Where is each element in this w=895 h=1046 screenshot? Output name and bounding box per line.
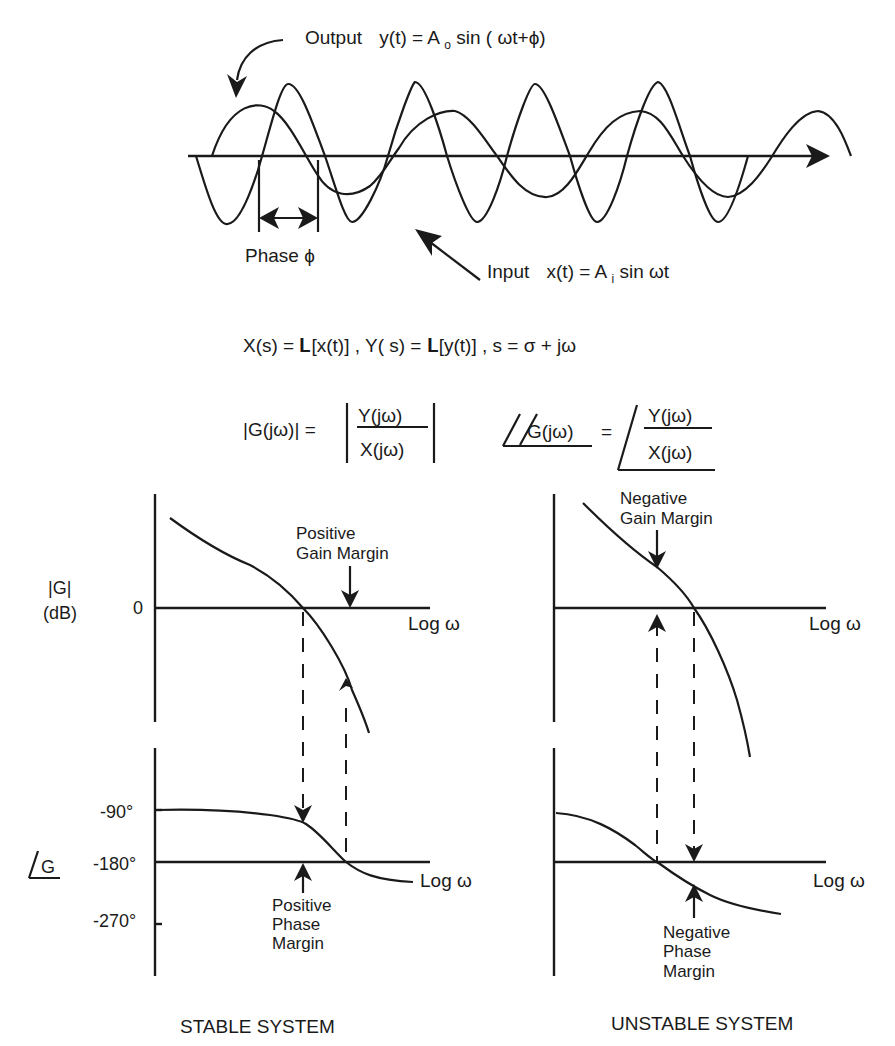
unstable-phase-margin-label-2: Phase (663, 942, 711, 961)
stable-caption: STABLE SYSTEM (180, 1016, 335, 1037)
phase-numerator: Y(jω) (648, 405, 692, 426)
phase-label: Phase ϕ (245, 245, 315, 266)
phase-tick-90: -90° (100, 802, 133, 822)
stable-phase-curve (157, 810, 413, 882)
stable-magnitude-plot: |G| (dB) 0 Log ω Positive Gain Margin (43, 494, 460, 733)
stable-gain-margin-label-2: Gain Margin (296, 544, 389, 563)
unstable-magnitude-curve (583, 503, 750, 757)
svg-text:Input x(t) = A i: Input x(t) = A i sin ωt (487, 261, 670, 287)
input-equation: x(t) = A (547, 261, 608, 282)
output-equation-tail: sin ( ωt+ϕ) (456, 27, 545, 48)
unstable-phase-plot: Log ω Negative Phase Margin (554, 748, 865, 981)
phase-tick-180: -180° (93, 854, 136, 874)
mag-axis-label-2: (dB) (43, 603, 77, 623)
output-label: Output (305, 27, 363, 48)
magnitude-lhs: |G(jω)| = (243, 419, 316, 440)
svg-text:Output y(t) = A o: Output y(t) = A o sin ( ωt+ϕ) (305, 27, 546, 53)
magnitude-denominator: X(jω) (360, 439, 404, 460)
stable-phase-margin-label-3: Margin (272, 934, 324, 953)
stable-gain-margin-label-1: Positive (296, 524, 356, 543)
equations: X(s) = 𝐋[x(t)] , Y( s) = 𝐋[y(t)] , s = σ… (243, 335, 715, 470)
magnitude-numerator: Y(jω) (358, 405, 402, 426)
unstable-phase-margin-label-1: Negative (663, 923, 730, 942)
stable-phase-margin-label-2: Phase (272, 915, 320, 934)
mag-axis-label-1: |G| (48, 578, 71, 598)
phase-axis-label: G (41, 857, 55, 877)
input-equation-tail: sin ωt (619, 261, 669, 282)
unstable-phase-curve (556, 813, 781, 914)
input-label: Input (487, 261, 530, 282)
phase-tick-270: -270° (93, 911, 136, 931)
unstable-gain-margin-label-2: Gain Margin (620, 509, 713, 528)
input-pointer-arrowhead-icon (415, 229, 442, 256)
phase-denominator: X(jω) (648, 442, 692, 463)
input-wave (212, 105, 851, 197)
unstable-caption: UNSTABLE SYSTEM (611, 1013, 793, 1034)
phase-lhs: G(jω) (527, 421, 574, 442)
unstable-phase-margin-label-3: Margin (663, 962, 715, 981)
unstable-gain-margin-label-1: Negative (620, 489, 687, 508)
input-subscript: i (612, 272, 615, 286)
unstable-magnitude-plot: Negative Gain Margin Log ω (554, 489, 861, 757)
input-pointer (430, 242, 480, 280)
output-subscript: o (444, 38, 451, 52)
stable-mag-x-label: Log ω (408, 613, 460, 634)
phase-equals: = (601, 421, 612, 442)
signal-waves: Output y(t) = A o sin ( ωt+ϕ) Phase ϕ In… (188, 27, 851, 287)
bode-stability-diagram: Output y(t) = A o sin ( ωt+ϕ) Phase ϕ In… (0, 0, 895, 1046)
mag-zero-tick: 0 (133, 598, 143, 618)
stable-phase-x-label: Log ω (420, 870, 472, 891)
output-wave (196, 82, 748, 224)
laplace-equation: X(s) = 𝐋[x(t)] , Y( s) = 𝐋[y(t)] , s = σ… (243, 335, 576, 356)
stable-phase-plot: -90° -180° -270° G Log ω Positive Phase … (29, 748, 472, 976)
unstable-mag-x-label: Log ω (809, 613, 861, 634)
unstable-phase-x-label: Log ω (813, 870, 865, 891)
output-pointer (237, 40, 283, 80)
output-equation: y(t) = A (379, 27, 440, 48)
stable-phase-margin-label-1: Positive (272, 896, 332, 915)
